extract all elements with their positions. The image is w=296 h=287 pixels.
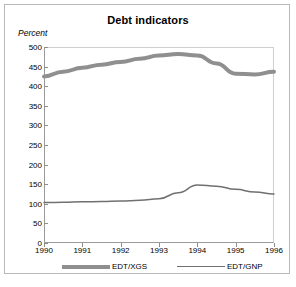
series-line-edt-gnp — [44, 185, 274, 203]
legend-item-edt-gnp: EDT/GNP — [177, 262, 263, 271]
legend-line-swatch-icon — [177, 266, 225, 268]
series-line-edt-xgs — [44, 54, 274, 76]
legend-label: EDT/XGS — [112, 262, 147, 271]
series-layer — [0, 0, 296, 287]
legend-label: EDT/GNP — [227, 262, 263, 271]
chart-legend: EDT/XGS EDT/GNP — [0, 262, 296, 276]
legend-line-swatch-icon — [62, 265, 110, 269]
legend-item-edt-xgs: EDT/XGS — [62, 262, 147, 271]
chart-figure: Debt indicators Percent 0501001502002503… — [0, 0, 296, 287]
